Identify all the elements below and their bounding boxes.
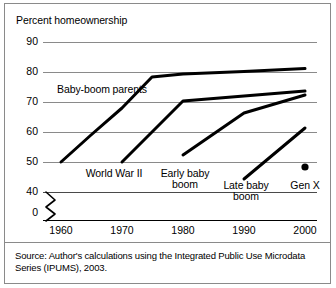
source-note: Source: Author's calculations using the … xyxy=(15,250,320,274)
x-axis-tick-1980: 1980 xyxy=(160,225,206,236)
series-line-late-baby-boom xyxy=(244,128,305,179)
y-axis-tick-70: 70 xyxy=(16,96,38,107)
chart-canvas xyxy=(5,4,332,242)
series-label-late-baby-boom: Late baby boom xyxy=(217,180,275,202)
series-line-early-baby-boom xyxy=(183,95,305,155)
series-label-world-war-ii: World War II xyxy=(77,168,151,179)
series-label-gen-x: Gen X xyxy=(282,180,328,191)
x-axis-tick-2000: 2000 xyxy=(282,225,328,236)
x-axis-tick-1970: 1970 xyxy=(99,225,145,236)
source-divider xyxy=(5,242,330,243)
y-axis-tick-60: 60 xyxy=(16,126,38,137)
x-axis-tick-1990: 1990 xyxy=(221,225,267,236)
figure-container: Percent homeownership xyxy=(4,3,331,284)
x-axis-tick-1960: 1960 xyxy=(38,225,84,236)
series-label-baby-boom-parents: Baby-boom parents xyxy=(57,84,147,95)
y-axis-tick-80: 80 xyxy=(16,66,38,77)
y-axis-tick-50: 50 xyxy=(16,156,38,167)
y-axis-break-zigzag xyxy=(46,192,55,221)
chart-plot-panel: Percent homeownership xyxy=(5,4,330,242)
series-point-gen-x xyxy=(301,163,308,170)
y-axis-tick-40: 40 xyxy=(16,186,38,197)
series-label-early-baby-boom: Early baby boom xyxy=(157,168,213,190)
y-axis-tick-0: 0 xyxy=(16,207,38,218)
y-axis-tick-90: 90 xyxy=(16,36,38,47)
